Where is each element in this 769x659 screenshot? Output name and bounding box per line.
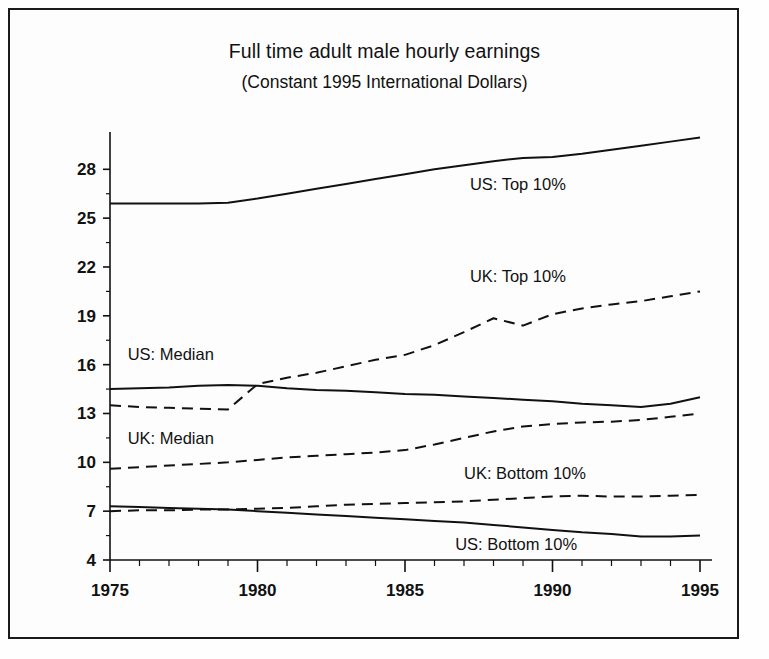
series-annotation-us-bottom: US: Bottom 10%	[455, 535, 577, 553]
x-tick-label: 1985	[386, 581, 424, 600]
y-tick-label: 25	[77, 209, 96, 228]
x-tick-label: 1975	[91, 581, 129, 600]
series-annotation-uk-top: UK: Top 10%	[470, 267, 566, 285]
series-line-us-median	[110, 385, 700, 407]
y-tick-label: 19	[77, 307, 96, 326]
y-tick-label: 7	[87, 502, 96, 521]
x-tick-label: 1995	[681, 581, 719, 600]
series-line-us-bottom-10	[110, 506, 700, 536]
x-tick-label: 1990	[534, 581, 572, 600]
x-tick-label: 1980	[239, 581, 277, 600]
y-tick-label: 16	[77, 356, 96, 375]
series-annotation-uk-bottom: UK: Bottom 10%	[464, 464, 586, 482]
axis-layer: 471013161922252819751980198519901995	[77, 132, 719, 600]
series-annotation-uk-median: UK: Median	[128, 429, 214, 447]
chart-figure: Full time adult male hourly earnings (Co…	[0, 0, 769, 659]
series-annotation-us-top: US: Top 10%	[470, 175, 566, 193]
y-tick-label: 4	[87, 551, 97, 570]
series-line-us-top-10	[110, 138, 700, 204]
y-tick-label: 28	[77, 160, 96, 179]
y-tick-label: 13	[77, 404, 96, 423]
y-tick-label: 10	[77, 453, 96, 472]
series-annotation-us-median: US: Median	[128, 345, 214, 363]
series-layer	[110, 138, 700, 537]
line-chart-plot: 471013161922252819751980198519901995 US:…	[0, 0, 769, 659]
y-tick-label: 22	[77, 258, 96, 277]
